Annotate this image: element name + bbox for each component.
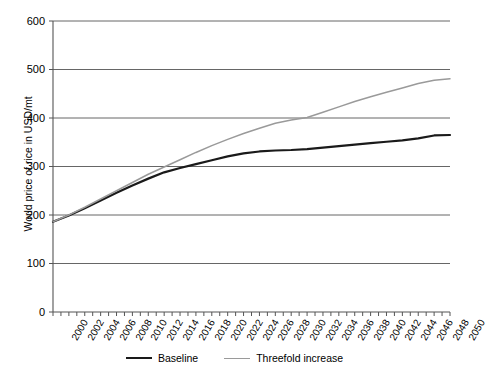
y-tick-label: 100 (1, 258, 45, 269)
x-axis-ticks (53, 312, 450, 316)
y-tick-label: 400 (1, 113, 45, 124)
y-tick-label: 0 (1, 307, 45, 318)
y-tick-label: 300 (1, 161, 45, 172)
legend-label-baseline: Baseline (158, 352, 198, 364)
series-line-baseline (53, 135, 450, 222)
series-lines (53, 79, 450, 222)
y-tick-label: 600 (1, 16, 45, 27)
legend-item-threefold-increase: Threefold increase (224, 352, 343, 364)
y-tick-label: 200 (1, 210, 45, 221)
y-tick-label: 500 (1, 64, 45, 75)
chart-legend: Baseline Threefold increase (0, 352, 469, 364)
legend-line-icon-threefold (224, 358, 250, 359)
legend-label-threefold-increase: Threefold increase (256, 352, 343, 364)
series-line-threefold-increase (53, 79, 450, 222)
y-axis-ticks (49, 21, 53, 312)
legend-line-icon-baseline (126, 357, 152, 359)
legend-item-baseline: Baseline (126, 352, 198, 364)
